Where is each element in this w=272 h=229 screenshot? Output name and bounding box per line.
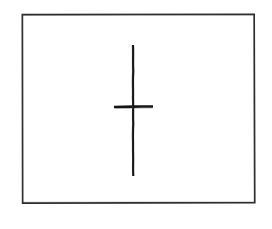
- horizontal-stroke: [114, 106, 153, 107]
- line-drawing-svg: [0, 0, 272, 229]
- figure-canvas: [0, 0, 272, 229]
- page-background: [0, 0, 272, 229]
